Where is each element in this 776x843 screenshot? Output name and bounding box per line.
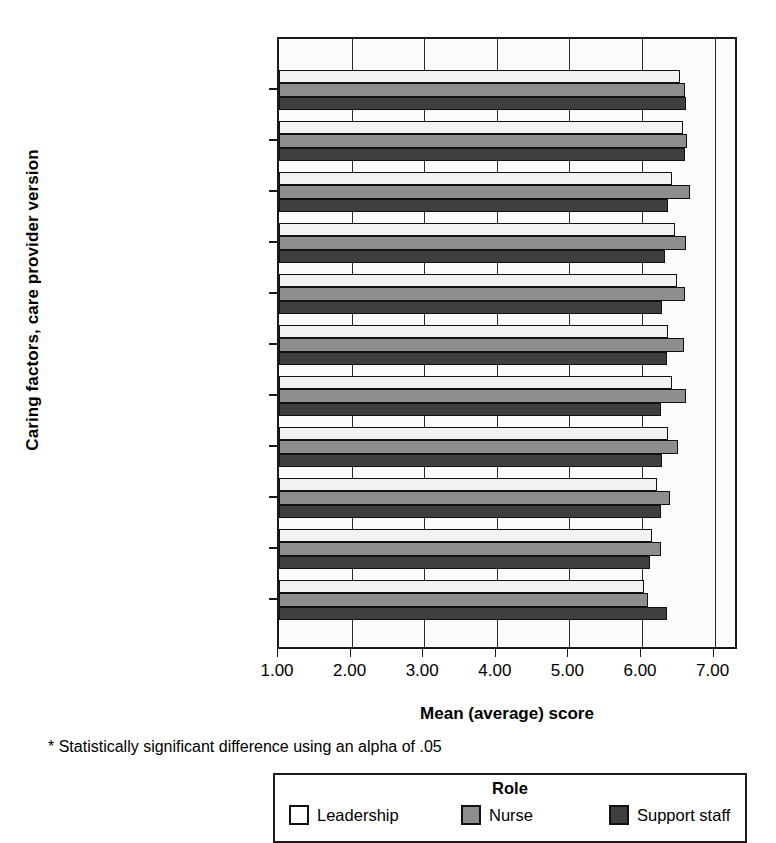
chart-footnote: * Statistically significant difference u… — [48, 738, 442, 756]
legend-items: LeadershipNurseSupport staff — [275, 805, 745, 825]
bar-leadership — [279, 478, 657, 491]
y-tick-mark — [269, 598, 277, 600]
bar-nurse — [279, 338, 684, 351]
bar-leadership — [279, 172, 672, 185]
y-tick-mark — [269, 292, 277, 294]
legend-swatch-nurse — [461, 805, 481, 825]
legend-item: Nurse — [461, 805, 609, 825]
legend-swatch-support — [609, 805, 629, 825]
y-tick-mark — [269, 343, 277, 345]
bar-leadership — [279, 529, 652, 542]
bar-nurse — [279, 185, 690, 198]
legend-item: Leadership — [289, 805, 461, 825]
bar-support — [279, 301, 662, 314]
x-tick-mark — [640, 649, 641, 657]
bar-leadership — [279, 121, 683, 134]
plot-area — [277, 37, 737, 649]
bar-nurse — [279, 593, 648, 606]
bar-support — [279, 403, 661, 416]
x-tick-mark — [567, 649, 568, 657]
bar-support — [279, 250, 665, 263]
bar-support — [279, 607, 667, 620]
bar-nurse — [279, 134, 687, 147]
bar-nurse — [279, 491, 670, 504]
x-tick-label: 6.00 — [605, 661, 675, 681]
bars-container — [279, 39, 735, 647]
bar-support — [279, 199, 668, 212]
bar-nurse — [279, 83, 685, 96]
y-tick-mark — [269, 88, 277, 90]
bar-nurse — [279, 440, 678, 453]
y-tick-mark — [269, 241, 277, 243]
x-tick-mark — [713, 649, 714, 657]
x-tick-mark — [350, 649, 351, 657]
bar-leadership — [279, 427, 668, 440]
bar-nurse — [279, 236, 686, 249]
legend: Role LeadershipNurseSupport staff — [273, 773, 747, 843]
bar-leadership — [279, 223, 675, 236]
bar-support — [279, 454, 662, 467]
y-tick-mark — [269, 547, 277, 549]
x-tick-label: 2.00 — [315, 661, 385, 681]
x-tick-mark — [422, 649, 423, 657]
bar-leadership — [279, 70, 680, 83]
legend-swatch-leadership — [289, 805, 309, 825]
x-tick-label: 7.00 — [678, 661, 748, 681]
x-tick-mark — [495, 649, 496, 657]
bar-nurse — [279, 542, 661, 555]
bar-support — [279, 148, 685, 161]
bar-nurse — [279, 389, 686, 402]
x-tick-label: 1.00 — [242, 661, 312, 681]
legend-label: Support staff — [637, 806, 730, 825]
bar-leadership — [279, 376, 672, 389]
x-tick-label: 3.00 — [387, 661, 457, 681]
bar-support — [279, 97, 686, 110]
x-axis-title: Mean (average) score — [277, 704, 737, 724]
bar-support — [279, 505, 661, 518]
y-tick-mark — [269, 190, 277, 192]
legend-label: Leadership — [317, 806, 399, 825]
y-tick-mark — [269, 139, 277, 141]
x-tick-mark — [277, 649, 278, 657]
y-axis-title: Caring factors, care provider version — [23, 85, 43, 515]
legend-label: Nurse — [489, 806, 533, 825]
legend-item: Support staff — [609, 805, 730, 825]
y-tick-mark — [269, 445, 277, 447]
bar-leadership — [279, 325, 668, 338]
y-tick-mark — [269, 496, 277, 498]
bar-support — [279, 556, 650, 569]
bar-leadership — [279, 580, 644, 593]
legend-title: Role — [275, 779, 745, 798]
bar-support — [279, 352, 667, 365]
y-tick-mark — [269, 394, 277, 396]
bar-nurse — [279, 287, 685, 300]
bar-leadership — [279, 274, 677, 287]
x-tick-label: 4.00 — [460, 661, 530, 681]
x-tick-label: 5.00 — [532, 661, 602, 681]
